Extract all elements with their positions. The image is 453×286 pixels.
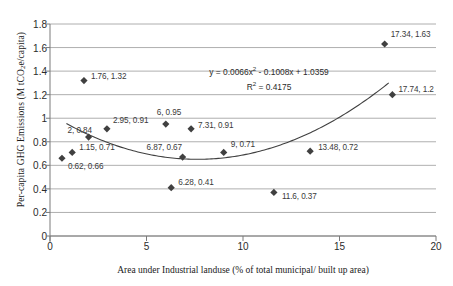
data-point-label: 11.6, 0.37 bbox=[282, 192, 317, 201]
data-point-label: 6.87, 0.67 bbox=[147, 143, 182, 152]
data-point-marker bbox=[187, 125, 194, 132]
data-point-label: 2.95, 0.91 bbox=[113, 116, 148, 125]
data-point-marker bbox=[389, 91, 396, 98]
data-point-label: 7.31, 0.91 bbox=[198, 121, 233, 130]
data-point-label: 17.74, 1.2 bbox=[398, 85, 433, 94]
r-squared-number: = 0.4175 bbox=[256, 82, 291, 92]
r-squared-value: R2 = 0.4175 bbox=[186, 78, 352, 93]
equation-tail: - 0.1008x + 1.0359 bbox=[256, 67, 328, 77]
x-axis-title: Area under Industrial landuse (% of tota… bbox=[50, 265, 436, 275]
data-point-label: 0.62, 0.66 bbox=[68, 162, 103, 171]
data-point-label: 2, 0.84 bbox=[68, 126, 92, 135]
data-point-label: 6.28, 0.41 bbox=[178, 178, 213, 187]
data-point-marker bbox=[162, 121, 169, 128]
data-point-label: 9, 0.71 bbox=[231, 140, 255, 149]
data-point-marker bbox=[220, 149, 227, 156]
plot-area bbox=[0, 0, 453, 286]
data-point-label: 13.48, 0.72 bbox=[318, 143, 358, 152]
data-point-label: 6, 0.95 bbox=[157, 108, 181, 117]
data-point-label: 17.34, 1.63 bbox=[391, 30, 431, 39]
scatter-chart: Per-capita GHG Emissions (M tCO2e/capita… bbox=[0, 0, 453, 286]
data-point-label: 1.15, 0.71 bbox=[79, 143, 114, 152]
trendline-equation: y = 0.0066x2 - 0.1008x + 1.0359 bbox=[186, 63, 352, 78]
trendline-equation-annotation: y = 0.0066x2 - 0.1008x + 1.0359 R2 = 0.4… bbox=[186, 63, 352, 94]
data-point-marker bbox=[270, 189, 277, 196]
data-point-marker bbox=[58, 155, 65, 162]
data-point-marker bbox=[103, 125, 110, 132]
data-point-marker bbox=[80, 77, 87, 84]
data-point-marker bbox=[307, 148, 314, 155]
equation-text: y = 0.0066x bbox=[209, 67, 253, 77]
data-point-marker bbox=[69, 149, 76, 156]
data-point-marker bbox=[168, 184, 175, 191]
data-point-label: 1.76, 1.32 bbox=[91, 72, 126, 81]
data-point-marker bbox=[381, 40, 388, 47]
data-point-marker bbox=[179, 153, 186, 160]
